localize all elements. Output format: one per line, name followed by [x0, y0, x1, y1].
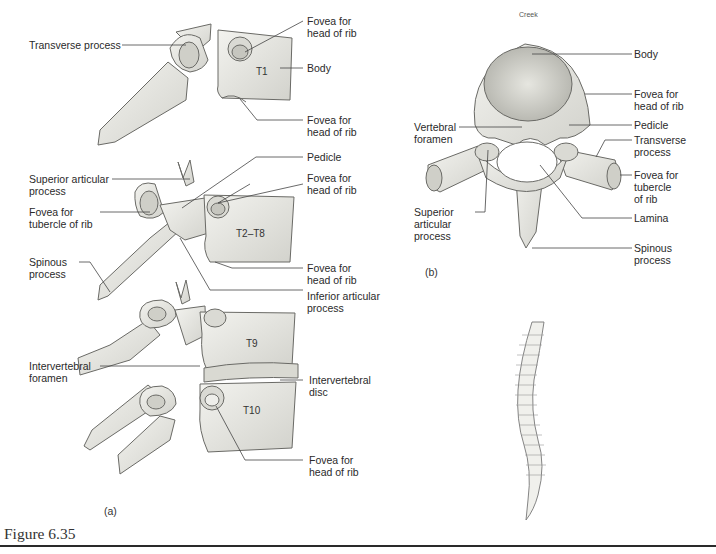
label-pedicle-b: Pedicle — [634, 119, 668, 131]
label-pedicle-a: Pedicle — [307, 151, 341, 163]
vertebral-column — [515, 322, 546, 520]
label-spinous-process-a: Spinous process — [29, 256, 67, 280]
panel-b-tag: (b) — [425, 266, 438, 278]
label-fovea-head-rib-3: Fovea for head of rib — [307, 172, 357, 196]
label-superior-articular-process-b: Superior articular process — [414, 206, 454, 242]
intervertebral-disc — [204, 363, 298, 382]
label-body-b: Body — [634, 48, 658, 60]
label-spinous-process-b: Spinous process — [634, 242, 672, 266]
label-fovea-tubercle-rib-b: Fovea for tubercle of rib — [634, 169, 678, 205]
label-fovea-head-rib-b: Fovea for head of rib — [634, 88, 684, 112]
label-fovea-tubercle-rib-a: Fovea for tubercle of rib — [29, 206, 93, 230]
caption-rule — [0, 545, 716, 547]
label-superior-articular-process-a: Superior articular process — [29, 173, 109, 197]
label-fovea-head-rib-1: Fovea for head of rib — [307, 15, 357, 39]
label-body-a: Body — [307, 62, 331, 74]
label-fovea-head-rib-5: Fovea for head of rib — [309, 454, 359, 478]
label-intervertebral-foramen: Intervertebral foramen — [29, 360, 91, 384]
vertebra-label-t1: T1 — [256, 66, 268, 77]
panel-a-tag: (a) — [104, 505, 117, 517]
vertebral-foramen-opening — [497, 142, 557, 182]
figure-canvas: T1 T2–T8 T9 T10 Transverse process Fovea… — [0, 0, 716, 554]
label-transverse-process-b: Transverse process — [634, 134, 686, 158]
label-inferior-articular-process: Inferior articular process — [307, 290, 380, 314]
label-transverse-process-a: Transverse process — [29, 39, 121, 51]
label-fovea-head-rib-4: Fovea for head of rib — [307, 262, 357, 286]
vertebra-label-t9: T9 — [246, 338, 258, 349]
vertebra-label-t2-t8: T2–T8 — [236, 228, 265, 239]
label-fovea-head-rib-2: Fovea for head of rib — [307, 114, 357, 138]
label-vertebral-foramen: Vertebral foramen — [414, 121, 456, 145]
figure-title: Figure 6.35 — [4, 525, 75, 543]
vertebra-label-t10: T10 — [243, 405, 260, 416]
label-lamina: Lamina — [634, 212, 668, 224]
label-intervertebral-disc: Intervertebral disc — [309, 374, 371, 398]
illustrator-credit: Creek — [519, 11, 538, 18]
